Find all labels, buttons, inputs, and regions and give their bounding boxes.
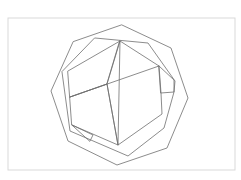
diagram-canvas — [0, 0, 241, 180]
